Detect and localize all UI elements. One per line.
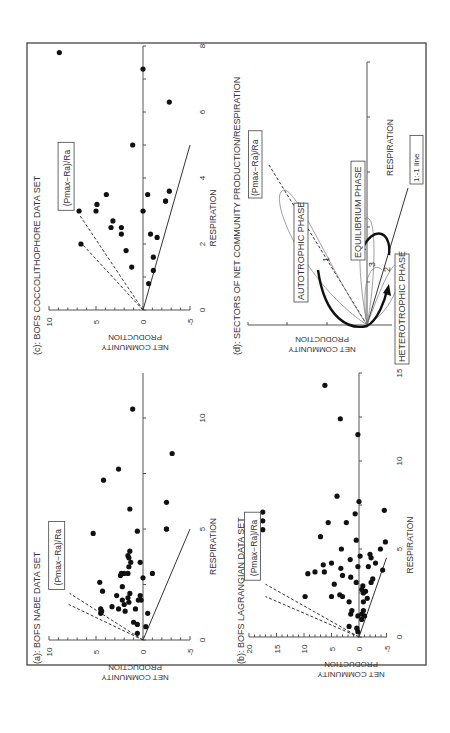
data-point [344, 520, 349, 525]
data-point [76, 208, 81, 213]
resp-tick-label: 0 [395, 634, 404, 639]
data-point [98, 606, 103, 611]
data-point [347, 624, 352, 629]
panel-a: 1050-50510RESPIRATIONNET COMMUNITYPRODUC… [45, 373, 218, 682]
one-to-one-label: 1:-1 line [410, 135, 423, 184]
resp-tick-label: 5 [198, 526, 207, 531]
svg-text:(Pmax−Ra)/Ra: (Pmax−Ra)/Ra [250, 139, 260, 196]
data-point [119, 571, 124, 576]
data-point [150, 571, 155, 576]
resp-tick-label: 0 [198, 307, 207, 312]
data-point [338, 566, 343, 571]
svg-text:(Pmax−Ra)/Ra: (Pmax−Ra)/Ra [249, 519, 259, 576]
data-point [116, 466, 121, 471]
data-point [329, 594, 334, 599]
data-point [138, 593, 143, 598]
data-point [365, 596, 370, 601]
data-point [167, 100, 172, 105]
svg-text:2: 2 [382, 267, 392, 272]
panel-a-title: (a): BOFS NABE DATA SET [32, 551, 42, 664]
data-point [329, 560, 334, 565]
autotrophic-phase-label: AUTOTROPHIC PHASE [294, 202, 308, 302]
data-point [116, 606, 121, 611]
pmax-ratio-line [266, 597, 360, 637]
data-point [125, 553, 130, 558]
data-point [91, 531, 96, 536]
data-point [148, 232, 153, 237]
data-point [355, 432, 360, 437]
ncp-label-line1: NET COMMUNITY [288, 345, 356, 354]
data-point [382, 508, 387, 513]
trajectory-1-label: 1 [321, 257, 331, 262]
data-point [349, 608, 354, 613]
data-point [348, 557, 353, 562]
data-point [318, 534, 323, 539]
ncp-label-line1: NET COMMUNITY [101, 343, 169, 352]
ncp-label-line1: NET COMMUNITY [101, 673, 169, 682]
data-point [260, 518, 265, 523]
data-point [167, 189, 172, 194]
svg-text:EQUILIBRIUM PHASE: EQUILIBRIUM PHASE [353, 166, 363, 258]
data-point [123, 609, 128, 614]
data-point [94, 202, 99, 207]
data-point [127, 506, 132, 511]
panel-c-title: (c): BOFS COCCOLITHOPHORE DATA SET [32, 175, 42, 355]
data-point [326, 520, 331, 525]
ncp-tick-label: 5 [328, 646, 337, 651]
data-point [337, 592, 342, 597]
respiration-label: RESPIRATION [208, 518, 218, 575]
data-point [125, 595, 130, 600]
data-point [354, 626, 359, 631]
panel-d-title: (d): SECTORS OF NET COMMUNITY PRODUCTION… [232, 77, 242, 355]
data-point [321, 562, 326, 567]
trajectory-2-label: 2 [382, 267, 392, 272]
ncp-tick-label: 15 [273, 644, 282, 653]
data-point [97, 580, 102, 585]
data-point [260, 527, 265, 532]
data-point [119, 232, 124, 237]
data-point [164, 500, 169, 505]
data-point [370, 576, 375, 581]
respiration-label: RESPIRATION [405, 517, 415, 574]
data-point [361, 608, 366, 613]
data-point [120, 584, 125, 589]
svg-text:HETEROTROPHIC PHASE: HETEROTROPHIC PHASE [397, 251, 407, 362]
data-point [146, 281, 151, 286]
ncp-tick-label: 10 [45, 647, 54, 656]
data-point [129, 265, 134, 270]
ncp-tick-label: 0 [139, 319, 148, 324]
data-point [378, 546, 383, 551]
data-point [57, 50, 62, 55]
ncp-label-line2: PRODUCTION [295, 335, 349, 344]
ncp-tick-label: 5 [92, 319, 101, 324]
resp-tick-label: 2 [198, 241, 207, 246]
ncp-tick-label: 10 [45, 317, 54, 326]
panel-b: 20151050-5051015RESPIRATIONNET COMMUNITY… [245, 368, 416, 679]
pmax-ratio-line [266, 584, 360, 637]
data-point [128, 560, 133, 565]
ncp-label-line2: PRODUCTION [108, 333, 162, 342]
resp-tick-label: 8 [198, 43, 207, 48]
data-point [170, 451, 175, 456]
data-point [126, 600, 131, 605]
data-point [155, 235, 160, 240]
data-point [145, 192, 150, 197]
one-to-one-line [143, 529, 190, 640]
trajectory-arrow-1 [318, 270, 387, 327]
data-point [101, 478, 106, 483]
ncp-label-line1: NET COMMUNITY [317, 670, 385, 679]
data-point [119, 225, 124, 230]
data-point [354, 538, 359, 543]
data-point [367, 552, 372, 557]
data-point [133, 606, 138, 611]
ratio-annotation: (Pmax−Ra)/Ra [249, 131, 263, 198]
data-point [361, 599, 366, 604]
data-point [109, 604, 114, 609]
data-point [104, 192, 109, 197]
data-point [151, 268, 156, 273]
data-point [78, 241, 83, 246]
resp-tick-label: 4 [198, 175, 207, 180]
data-point [373, 560, 378, 565]
data-point [130, 407, 135, 412]
trajectory-arrow-3 [362, 234, 389, 255]
